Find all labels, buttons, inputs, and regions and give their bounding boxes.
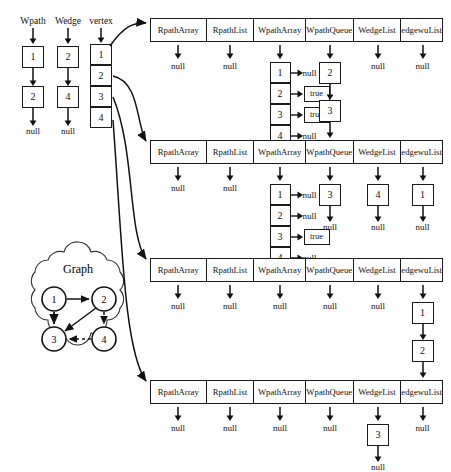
- vertex-2-block-edgewulist-arrow-0: [418, 167, 428, 181]
- vertex-4-block-edgewulist-null: null: [393, 423, 451, 433]
- vertex-2-block-edgewulist-null: null: [393, 222, 451, 232]
- vertex-2-block: RpathArrayRpathListWpathArrayWpathQueueW…: [150, 140, 443, 164]
- vertex-3-block-wpathqueue-arrow: [325, 285, 335, 299]
- vertex-2-block-wpatharray-slot-3-arrow: [291, 232, 303, 242]
- vertex-4-block-rpatharray-null: null: [148, 423, 208, 433]
- vertex-2-block-wpatharray-slot-1: 1: [270, 184, 291, 205]
- vertex-1-block-wpathqueue-node-2: 3: [319, 100, 341, 122]
- vertex-4-block-rpatharray-arrow: [173, 407, 183, 421]
- vertex-1-block-wpathqueue-arrow-2: [325, 122, 335, 138]
- vertex-4-block-wpathqueue-null: null: [300, 423, 360, 433]
- vertex-2-block-wpatharray-slot-2-arrow: [291, 211, 303, 221]
- vertex-1-block: RpathArrayRpathListWpathArrayWpathQueueW…: [150, 18, 443, 42]
- vertex-3-block-header-row: RpathArrayRpathListWpathArrayWpathQueueW…: [150, 258, 443, 282]
- vertex-4-block-wedgelist-arrow-1: [373, 446, 383, 462]
- header-wedgelist[interactable]: WedgeList: [354, 259, 402, 281]
- vertex-1-block-wpathqueue-arrow-1: [325, 84, 335, 100]
- vertex-2-block-edgewulist-arrow-1: [418, 206, 428, 222]
- wpath-list-arrow-0: [28, 28, 38, 44]
- header-edgewulist[interactable]: edgewuList: [401, 381, 442, 403]
- vertex-4-block: RpathArrayRpathListWpathArrayWpathQueueW…: [150, 380, 443, 404]
- vertex-cell-1: 1: [90, 44, 112, 65]
- vertex-4-block-wedgelist-arrow-0: [373, 407, 383, 421]
- vertex-2-block-wedgelist-arrow-0: [373, 167, 383, 181]
- vertex-2-block-rpathlist-null: null: [200, 183, 260, 193]
- vertex-2-block-rpathlist-arrow: [225, 167, 235, 181]
- header-rpathlist[interactable]: RpathList: [207, 141, 255, 163]
- vertex-2-block-wpatharray-slot-3: 3: [270, 226, 291, 247]
- vertex-1-block-rpathlist-arrow: [225, 45, 235, 59]
- vertex-3-block: RpathArrayRpathListWpathArrayWpathQueueW…: [150, 258, 443, 282]
- graph-cloud: Graph 1 2 3 4: [8, 238, 148, 363]
- header-wpathqueue[interactable]: WpathQueue: [306, 259, 354, 281]
- vertex-3-block-wpatharray-arrow: [275, 285, 285, 299]
- header-wpatharray[interactable]: WpathArray: [254, 259, 306, 281]
- header-wedgelist[interactable]: WedgeList: [354, 141, 402, 163]
- vertex-4-block-wedgelist-null: null: [348, 462, 408, 472]
- header-rpathlist[interactable]: RpathList: [207, 381, 255, 403]
- wedge-list-node-2: 4: [57, 86, 79, 108]
- header-rpathlist[interactable]: RpathList: [207, 259, 255, 281]
- header-edgewulist[interactable]: edgewuList: [401, 259, 442, 281]
- wedge-list-null: null: [38, 126, 98, 136]
- vertex-1-block-wpathqueue-arrow-0: [325, 45, 335, 59]
- vertex-2-block-wpathqueue-arrow-1: [325, 206, 335, 222]
- vertex-1-block-rpatharray-arrow: [173, 45, 183, 59]
- header-edgewulist[interactable]: edgewuList: [401, 141, 442, 163]
- header-edgewulist[interactable]: edgewuList: [401, 19, 442, 41]
- vertex-3-block-rpatharray-arrow: [173, 285, 183, 299]
- header-wpathqueue[interactable]: WpathQueue: [306, 141, 354, 163]
- connector-vertex-1: [110, 23, 146, 46]
- vertex-1-block-wpathqueue-node-1: 2: [319, 62, 341, 84]
- vertex-3-block-edgewulist-node-1: 1: [412, 302, 434, 324]
- vertex-2-block-wpatharray-slot-2: 2: [270, 205, 291, 226]
- graph-node-4-label: 4: [102, 334, 107, 345]
- vertex-3-block-edgewulist-arrow-2: [418, 362, 428, 378]
- header-wpatharray[interactable]: WpathArray: [254, 19, 306, 41]
- vertex-2-block-wpathqueue-arrow-0: [325, 167, 335, 181]
- graph-cloud-svg: Graph 1 2 3 4: [8, 238, 148, 363]
- header-rpatharray[interactable]: RpathArray: [151, 141, 207, 163]
- vertex-2-block-rpatharray-arrow: [173, 167, 183, 181]
- vertex-array-arrow: [96, 28, 106, 43]
- header-rpatharray[interactable]: RpathArray: [151, 259, 207, 281]
- vertex-array-header: vertex: [71, 16, 131, 26]
- graph-node-1-label: 1: [52, 294, 57, 305]
- vertex-1-block-wpatharray-slot-1-arrow: [291, 68, 303, 78]
- vertex-2-block-header-row: RpathArrayRpathListWpathArrayWpathQueueW…: [150, 140, 443, 164]
- header-wpatharray[interactable]: WpathArray: [254, 141, 306, 163]
- vertex-1-block-edgewulist-null: null: [393, 61, 451, 71]
- header-rpathlist[interactable]: RpathList: [207, 19, 255, 41]
- wpath-list-node-1: 1: [22, 46, 44, 68]
- wpath-list-node-2: 2: [22, 86, 44, 108]
- vertex-2-block-wpatharray-arrow: [275, 167, 285, 181]
- wedge-list-arrow-0: [63, 28, 73, 44]
- vertex-3-block-wedgelist-null: null: [348, 301, 408, 311]
- vertex-2-block-wedgelist-arrow-1: [373, 206, 383, 222]
- header-wedgelist[interactable]: WedgeList: [354, 381, 402, 403]
- vertex-cell-4: 4: [90, 107, 112, 128]
- vertex-3-block-rpathlist-arrow: [225, 285, 235, 299]
- header-wedgelist[interactable]: WedgeList: [354, 19, 402, 41]
- vertex-cell-3: 3: [90, 86, 112, 107]
- graph-node-3-label: 3: [52, 334, 57, 345]
- vertex-1-block-header-row: RpathArrayRpathListWpathArrayWpathQueueW…: [150, 18, 443, 42]
- wpath-list-arrow-1: [28, 68, 38, 86]
- connector-vertex-2: [113, 76, 146, 141]
- vertex-4-block-wpatharray-arrow: [275, 407, 285, 421]
- header-rpatharray[interactable]: RpathArray: [151, 19, 207, 41]
- vertex-4-block-edgewulist-arrow: [418, 407, 428, 421]
- vertex-1-block-rpatharray-null: null: [148, 61, 208, 71]
- header-wpatharray[interactable]: WpathArray: [254, 381, 306, 403]
- vertex-4-block-wpathqueue-arrow: [325, 407, 335, 421]
- vertex-2-block-wedgelist-node-1: 4: [367, 184, 389, 206]
- vertex-3-block-edgewulist-node-2: 2: [412, 340, 434, 362]
- vertex-4-block-rpathlist-arrow: [225, 407, 235, 421]
- connector-vertex-3: [113, 97, 146, 259]
- vertex-3-block-rpatharray-null: null: [148, 301, 208, 311]
- header-wpathqueue[interactable]: WpathQueue: [306, 19, 354, 41]
- header-wpathqueue[interactable]: WpathQueue: [306, 381, 354, 403]
- vertex-1-block-wpatharray-slot-3: 3: [270, 104, 291, 125]
- header-rpatharray[interactable]: RpathArray: [151, 381, 207, 403]
